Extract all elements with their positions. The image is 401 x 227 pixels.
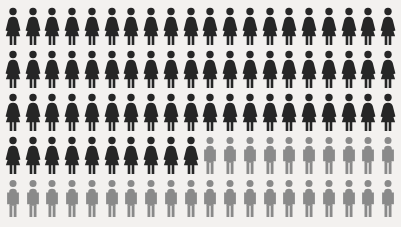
female-figure-icon [161, 91, 181, 134]
female-figure-icon [82, 5, 102, 48]
male-figure-icon [201, 176, 221, 219]
female-figure-icon [141, 133, 161, 176]
female-figure-icon [201, 5, 221, 48]
female-figure-icon [141, 48, 161, 91]
female-figure-icon [43, 5, 63, 48]
female-figure-icon [299, 91, 319, 134]
female-figure-icon [359, 91, 379, 134]
male-figure-icon [280, 176, 300, 219]
female-figure-icon [43, 133, 63, 176]
female-figure-icon [122, 133, 142, 176]
female-figure-icon [359, 48, 379, 91]
female-figure-icon [319, 48, 339, 91]
male-figure-icon [280, 133, 300, 176]
male-figure-icon [82, 176, 102, 219]
female-figure-icon [378, 48, 398, 91]
male-figure-icon [260, 176, 280, 219]
female-figure-icon [339, 5, 359, 48]
female-figure-icon [339, 91, 359, 134]
female-figure-icon [319, 91, 339, 134]
female-figure-icon [23, 5, 43, 48]
female-figure-icon [181, 5, 201, 48]
female-figure-icon [181, 133, 201, 176]
male-figure-icon [339, 133, 359, 176]
female-figure-icon [280, 91, 300, 134]
male-figure-icon [161, 176, 181, 219]
female-figure-icon [102, 91, 122, 134]
female-figure-icon [181, 91, 201, 134]
pictogram-chart [0, 0, 401, 227]
female-figure-icon [3, 48, 23, 91]
male-figure-icon [62, 176, 82, 219]
female-figure-icon [82, 91, 102, 134]
female-figure-icon [339, 48, 359, 91]
female-figure-icon [240, 5, 260, 48]
female-figure-icon [220, 48, 240, 91]
female-figure-icon [102, 48, 122, 91]
female-figure-icon [102, 5, 122, 48]
female-figure-icon [23, 48, 43, 91]
female-figure-icon [3, 133, 23, 176]
female-figure-icon [141, 5, 161, 48]
male-figure-icon [181, 176, 201, 219]
female-figure-icon [62, 133, 82, 176]
male-figure-icon [299, 133, 319, 176]
female-figure-icon [23, 133, 43, 176]
male-figure-icon [201, 133, 221, 176]
male-figure-icon [359, 133, 379, 176]
male-figure-icon [319, 133, 339, 176]
male-figure-icon [260, 133, 280, 176]
female-figure-icon [260, 5, 280, 48]
male-figure-icon [141, 176, 161, 219]
female-figure-icon [378, 91, 398, 134]
male-figure-icon [359, 176, 379, 219]
female-figure-icon [260, 91, 280, 134]
female-figure-icon [3, 91, 23, 134]
female-figure-icon [378, 5, 398, 48]
female-figure-icon [201, 91, 221, 134]
female-figure-icon [82, 48, 102, 91]
female-figure-icon [299, 48, 319, 91]
female-figure-icon [299, 5, 319, 48]
male-figure-icon [220, 176, 240, 219]
male-figure-icon [339, 176, 359, 219]
female-figure-icon [240, 91, 260, 134]
female-figure-icon [280, 5, 300, 48]
male-figure-icon [102, 176, 122, 219]
female-figure-icon [319, 5, 339, 48]
female-figure-icon [62, 5, 82, 48]
male-figure-icon [122, 176, 142, 219]
female-figure-icon [161, 5, 181, 48]
female-figure-icon [161, 48, 181, 91]
female-figure-icon [102, 133, 122, 176]
female-figure-icon [240, 48, 260, 91]
male-figure-icon [299, 176, 319, 219]
male-figure-icon [378, 176, 398, 219]
female-figure-icon [62, 48, 82, 91]
male-figure-icon [240, 176, 260, 219]
female-figure-icon [122, 48, 142, 91]
female-figure-icon [220, 5, 240, 48]
female-figure-icon [141, 91, 161, 134]
female-figure-icon [82, 133, 102, 176]
female-figure-icon [62, 91, 82, 134]
female-figure-icon [161, 133, 181, 176]
female-figure-icon [260, 48, 280, 91]
female-figure-icon [359, 5, 379, 48]
female-figure-icon [3, 5, 23, 48]
female-figure-icon [201, 48, 221, 91]
figure-grid [0, 0, 401, 227]
male-figure-icon [220, 133, 240, 176]
female-figure-icon [220, 91, 240, 134]
female-figure-icon [23, 91, 43, 134]
female-figure-icon [122, 5, 142, 48]
male-figure-icon [319, 176, 339, 219]
female-figure-icon [181, 48, 201, 91]
male-figure-icon [23, 176, 43, 219]
female-figure-icon [280, 48, 300, 91]
male-figure-icon [240, 133, 260, 176]
male-figure-icon [3, 176, 23, 219]
male-figure-icon [378, 133, 398, 176]
male-figure-icon [43, 176, 63, 219]
female-figure-icon [43, 48, 63, 91]
